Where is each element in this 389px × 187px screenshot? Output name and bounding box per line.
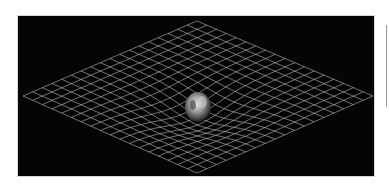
earth-icon bbox=[185, 92, 211, 122]
spacetime-grid bbox=[18, 16, 375, 177]
spacetime-figure bbox=[17, 15, 375, 177]
side-rule bbox=[386, 25, 387, 107]
